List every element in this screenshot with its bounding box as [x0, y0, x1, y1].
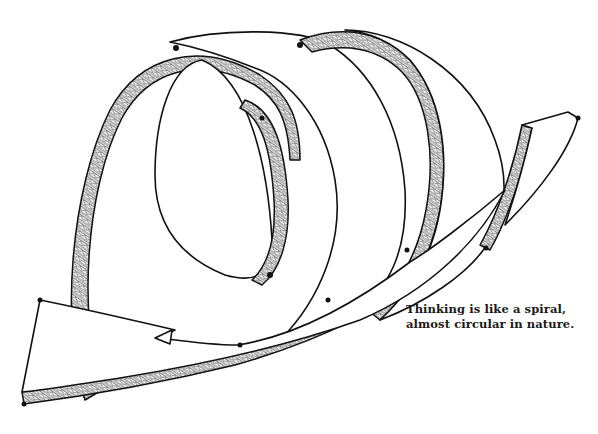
- ink-knot: [173, 45, 179, 51]
- ink-knot: [238, 343, 243, 348]
- ink-knot: [326, 298, 331, 303]
- ink-knot: [576, 116, 581, 121]
- caption-line-1: Thinking is like a spiral,: [406, 302, 574, 317]
- ink-knot: [267, 272, 273, 278]
- ribbon-inner-hole: [155, 60, 272, 278]
- caption: Thinking is like a spiral, almost circul…: [406, 302, 574, 332]
- ink-knot: [38, 298, 43, 303]
- ink-knot: [297, 42, 303, 48]
- caption-line-2: almost circular in nature.: [406, 317, 574, 332]
- ink-knot: [484, 246, 489, 251]
- ink-knot: [260, 116, 265, 121]
- spiral-ribbon-illustration: [0, 0, 598, 434]
- ink-knot: [405, 248, 410, 253]
- ink-knot: [22, 402, 27, 407]
